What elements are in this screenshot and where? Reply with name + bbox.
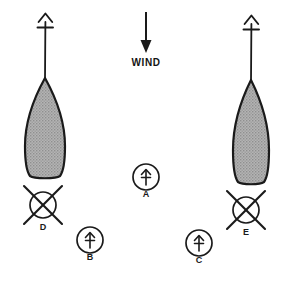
marker-b-label: B xyxy=(80,252,100,262)
marker-e-group[interactable] xyxy=(227,191,265,229)
marker-e-label: E xyxy=(236,227,256,237)
wind-indicator-arrow-icon xyxy=(39,14,53,23)
marker-a-group[interactable] xyxy=(133,164,159,190)
marker-d-label: D xyxy=(33,222,53,232)
wind-label: WIND xyxy=(116,57,176,68)
right-boat-group xyxy=(233,16,269,185)
marker-b-group[interactable] xyxy=(77,227,103,253)
diagram-canvas: WIND A B C D E xyxy=(0,0,290,284)
left-boat-hull xyxy=(25,78,65,178)
left-boat-group xyxy=(25,14,65,179)
sailing-diagram xyxy=(0,0,290,284)
marker-d-group[interactable] xyxy=(24,186,62,224)
wind-indicator-arrow-icon xyxy=(245,16,259,25)
right-boat-hull xyxy=(233,80,269,184)
marker-c-label: C xyxy=(189,255,209,265)
wind-arrow-group xyxy=(141,12,152,53)
arrow-down-icon xyxy=(141,40,152,53)
marker-a-label: A xyxy=(136,189,156,199)
marker-c-group[interactable] xyxy=(186,230,212,256)
